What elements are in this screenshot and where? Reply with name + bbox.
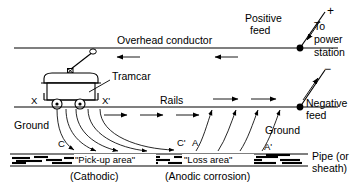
anodic-caption: (Anodic corrosion) [165,170,250,182]
negative-feed-label-line2: feed [306,109,327,121]
point-label-c-prime: C' [177,137,186,148]
loss-flow-path [240,110,258,151]
rails-label: Rails [160,94,183,106]
pipe-label-line2: sheath) [312,162,347,174]
tramcar-wheel-hub [55,102,58,105]
positive-feed-group: + Positive feed To power station [245,4,345,58]
stray-current-corrosion-diagram: Overhead conductor Tramcar Rails [0,0,353,184]
loss-flow-path [218,110,236,151]
to-power-station-line1: To [314,20,325,32]
tramcar-group: Tramcar [41,49,151,109]
pickup-area-label: "Pick-up area" [75,154,135,165]
to-power-station-line3: station [314,46,345,58]
pickup-flow-path [66,109,96,151]
tramcar-label: Tramcar [112,70,151,82]
tramcar-wheel-hub [78,102,81,105]
negative-feed-group: − Negative feed [297,62,348,121]
overhead-conductor-label: Overhead conductor [117,34,213,46]
overhead-conductor-group: Overhead conductor [14,34,338,57]
trolley-pole [71,54,91,70]
to-power-station-line2: power [314,33,343,45]
minus-icon: − [324,62,331,76]
tramcar-body [47,83,95,100]
positive-feed-label-line2: feed [250,24,271,36]
pipe-label-line1: Pipe (or [312,150,349,162]
ground-label-left: Ground [14,119,49,131]
cathodic-caption: (Cathodic) [70,170,118,182]
point-label-a-prime: A' [264,141,272,152]
point-label-x-prime: X' [102,95,110,106]
point-label-a: A [192,137,199,148]
plus-icon: + [327,4,334,18]
loss-area-label: "Loss area" [184,154,232,165]
positive-feed-label-line1: Positive [245,12,282,24]
negative-feed-label-line1: Negative [306,97,348,109]
diagram-canvas: Overhead conductor Tramcar Rails [0,0,353,184]
tramcar-roof [44,73,98,83]
point-label-x: X [31,95,38,106]
loss-flow-path [196,110,212,151]
point-label-c: C [58,138,65,149]
